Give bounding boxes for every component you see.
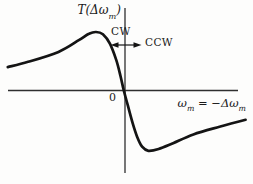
ccw-label: CCW <box>145 37 173 48</box>
x-axis-label-equals: = −Δω <box>194 96 238 110</box>
x-axis-label-omega: ω <box>178 96 187 110</box>
x-axis-label-subscript1: m <box>187 104 194 113</box>
y-axis-label-subscript: m <box>109 11 117 21</box>
cw-ccw-arrow <box>111 42 142 48</box>
cw-label: CW <box>111 26 131 37</box>
y-axis-label: T(Δωm) <box>58 4 121 19</box>
x-axis-label: ωm = −Δωm <box>148 98 246 112</box>
y-axis-label-text: T(Δω <box>77 3 108 17</box>
x-axis-label-subscript2: m <box>239 104 246 113</box>
origin-label: 0 <box>100 92 116 103</box>
torque-curve <box>8 32 246 151</box>
arrowhead-right-icon <box>134 42 142 48</box>
y-axis-label-close: ) <box>116 3 121 17</box>
figure-canvas: T(Δωm) CW CCW 0 ωm = −Δωm <box>0 0 253 184</box>
